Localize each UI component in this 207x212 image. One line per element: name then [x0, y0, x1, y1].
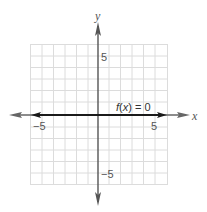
- y-axis-label: y: [94, 9, 101, 23]
- y-tick-label-5: 5: [101, 51, 107, 63]
- function-label: f(x) = 0: [116, 101, 151, 113]
- x-axis-label: x: [191, 109, 198, 123]
- coordinate-plane: y x 5 −5 −5 5 f(x) = 0: [0, 0, 207, 212]
- y-tick-label-neg5: −5: [101, 168, 114, 180]
- x-tick-label-5: 5: [151, 120, 157, 132]
- x-tick-label-neg5: −5: [33, 120, 46, 132]
